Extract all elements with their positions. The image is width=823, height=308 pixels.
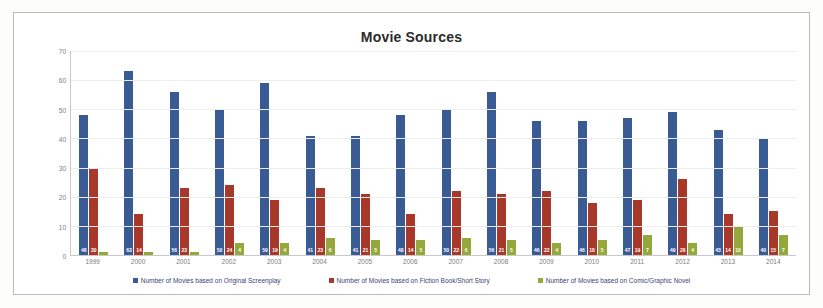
bar[interactable]: 24: [225, 185, 234, 255]
bar[interactable]: 26: [678, 179, 687, 255]
bar-value-label: 22: [544, 248, 550, 255]
chart-legend: Number of Movies based on Original Scree…: [14, 277, 809, 284]
gridline: [71, 80, 796, 81]
bar-value-label: 49: [670, 248, 676, 255]
bar[interactable]: 46: [532, 121, 541, 255]
bar-group: 56215: [479, 51, 524, 255]
bar[interactable]: 15: [769, 211, 778, 255]
bar[interactable]: 56: [487, 92, 496, 255]
bar-value-label: 4: [284, 248, 287, 255]
bar[interactable]: 48: [396, 115, 405, 255]
bar[interactable]: 41: [306, 136, 315, 255]
bar[interactable]: 6: [462, 238, 471, 255]
bar-value-label: 48: [81, 248, 87, 255]
legend-item[interactable]: Number of Movies based on Original Scree…: [133, 277, 281, 284]
gridline: [71, 197, 796, 198]
bar-value-label: 18: [589, 248, 595, 255]
bar[interactable]: 18: [588, 203, 597, 255]
legend-item[interactable]: Number of Movies based on Fiction Book/S…: [329, 277, 490, 284]
bar-value-label: 14: [408, 248, 414, 255]
bar-value-label: 5: [419, 248, 422, 255]
bar-value-label: 10: [735, 248, 741, 255]
bar[interactable]: 22: [452, 191, 461, 255]
plot-canvas: 4830163141562315024459194412364121548145…: [70, 51, 796, 256]
bar-group: 431410: [705, 51, 750, 255]
bar-value-label: 1: [148, 248, 151, 255]
bar[interactable]: 63: [124, 71, 133, 255]
gridline: [71, 138, 796, 139]
bar-value-label: 26: [680, 248, 686, 255]
y-axis-tick-label: 20: [59, 194, 66, 201]
bar-group: 48301: [71, 51, 116, 255]
bar[interactable]: 21: [361, 194, 370, 255]
bar-value-label: 1: [193, 248, 196, 255]
bar[interactable]: 5: [416, 240, 425, 255]
bar[interactable]: 1: [99, 252, 108, 255]
y-axis-tick-label: 70: [59, 48, 66, 55]
bar[interactable]: 19: [270, 200, 279, 255]
legend-swatch-icon: [133, 278, 138, 283]
bar[interactable]: 4: [688, 243, 697, 255]
bar[interactable]: 23: [180, 188, 189, 255]
x-axis-tick-label: 2006: [388, 258, 433, 265]
bar[interactable]: 4: [280, 243, 289, 255]
bar[interactable]: 48: [79, 115, 88, 255]
bar-value-label: 7: [782, 248, 785, 255]
bar-value-label: 1: [102, 248, 105, 255]
plot-area: 010203040506070 483016314156231502445919…: [44, 51, 796, 256]
legend-label: Number of Movies based on Original Scree…: [141, 277, 281, 284]
bar-groups: 4830163141562315024459194412364121548145…: [71, 51, 796, 255]
bar[interactable]: 14: [724, 214, 733, 255]
bar[interactable]: 49: [668, 112, 677, 255]
bar[interactable]: 10: [734, 226, 743, 255]
bar[interactable]: 19: [633, 200, 642, 255]
x-axis-tick-label: 2000: [115, 258, 160, 265]
bar[interactable]: 41: [351, 136, 360, 255]
x-axis-tick-label: 2002: [206, 258, 251, 265]
bar-value-label: 50: [217, 248, 223, 255]
bar[interactable]: 14: [134, 214, 143, 255]
bar[interactable]: 46: [578, 121, 587, 255]
bar[interactable]: 56: [170, 92, 179, 255]
bar[interactable]: 1: [190, 252, 199, 255]
bar-value-label: 14: [725, 248, 731, 255]
bar-value-label: 59: [262, 248, 268, 255]
legend-swatch-icon: [329, 278, 334, 283]
bar-value-label: 4: [555, 248, 558, 255]
bar[interactable]: 50: [215, 109, 224, 255]
x-axis-tick-label: 2005: [342, 258, 387, 265]
bar-value-label: 30: [91, 248, 97, 255]
bar[interactable]: 4: [552, 243, 561, 255]
bar-group: 46224: [524, 51, 569, 255]
bar[interactable]: 5: [598, 240, 607, 255]
bar-value-label: 15: [771, 248, 777, 255]
x-axis: 1999200020012002200320042005200620072008…: [70, 258, 796, 265]
bar[interactable]: 22: [542, 191, 551, 255]
bar-value-label: 41: [307, 248, 313, 255]
bar[interactable]: 21: [497, 194, 506, 255]
bar[interactable]: 43: [714, 130, 723, 255]
bar-value-label: 4: [238, 248, 241, 255]
x-axis-tick-label: 2013: [705, 258, 750, 265]
bar[interactable]: 30: [89, 168, 98, 255]
legend-item[interactable]: Number of Movies based on Comic/Graphic …: [538, 277, 691, 284]
bar[interactable]: 1: [144, 252, 153, 255]
bar[interactable]: 6: [326, 238, 335, 255]
bar-group: 41215: [343, 51, 388, 255]
bar-value-label: 14: [136, 248, 142, 255]
y-axis-tick-label: 60: [59, 77, 66, 84]
gridline: [71, 109, 796, 110]
legend-swatch-icon: [538, 278, 543, 283]
bar[interactable]: 7: [643, 235, 652, 255]
bar[interactable]: 5: [371, 240, 380, 255]
bar[interactable]: 7: [779, 235, 788, 255]
bar[interactable]: 5: [507, 240, 516, 255]
bar-group: 41236: [298, 51, 343, 255]
bar-value-label: 21: [363, 248, 369, 255]
bar[interactable]: 4: [235, 243, 244, 255]
bar[interactable]: 50: [442, 109, 451, 255]
bar[interactable]: 23: [316, 188, 325, 255]
x-axis-tick-label: 2003: [252, 258, 297, 265]
page-background: Movie Sources 010203040506070 4830163141…: [0, 0, 823, 308]
bar[interactable]: 14: [406, 214, 415, 255]
